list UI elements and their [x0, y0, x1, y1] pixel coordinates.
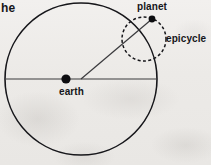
- epicycle-label: epicycle: [166, 33, 206, 44]
- figure-canvas: planet epicycle earth he: [0, 0, 211, 165]
- earth-label: earth: [59, 86, 84, 97]
- epicycle-diagram-svg: [0, 0, 211, 165]
- radius-line-to-planet: [81, 19, 152, 79]
- page-text-fragment: he: [1, 1, 15, 15]
- earth-dot: [61, 74, 70, 83]
- planet-label: planet: [137, 1, 167, 12]
- planet-dot: [149, 16, 156, 23]
